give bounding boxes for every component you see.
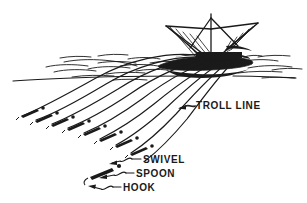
swivel-icon — [119, 130, 123, 134]
swivel-icon — [150, 144, 154, 148]
leader-arrow-icon — [93, 186, 121, 190]
leader-arrow-icon — [178, 105, 186, 110]
figure-canvas: TROLL LINE SWIVEL SPOON HOOK — [0, 0, 307, 203]
hook-icon — [84, 178, 88, 185]
leader-arrow-icon — [88, 185, 96, 190]
leader-arrow-icon — [109, 161, 117, 166]
lure-icon — [110, 136, 139, 150]
swivel-icon — [71, 115, 75, 119]
label-troll-line: TROLL LINE — [196, 101, 261, 111]
hook-icon — [94, 141, 97, 144]
hook-icon — [16, 117, 19, 120]
hook-icon — [125, 155, 128, 158]
swivel-icon — [135, 136, 139, 140]
hook-icon — [30, 122, 33, 125]
hook-icon — [110, 147, 113, 150]
hook-icon — [46, 126, 49, 129]
lure-icon — [62, 119, 91, 133]
swivel-icon — [41, 106, 45, 110]
swivel-icon — [87, 119, 91, 123]
hook-icon — [62, 130, 65, 133]
lure-icon — [94, 130, 123, 144]
label-hook: HOOK — [123, 183, 155, 193]
label-swivel: SWIVEL — [143, 155, 185, 165]
hook-icon — [78, 135, 81, 138]
lure-icon — [84, 164, 121, 185]
swivel-icon — [117, 164, 121, 168]
label-spoon: SPOON — [136, 169, 175, 179]
wave-icon — [238, 55, 302, 78]
lure-icon — [78, 124, 107, 138]
swivel-icon — [103, 124, 107, 128]
swivel-icon — [55, 111, 59, 115]
